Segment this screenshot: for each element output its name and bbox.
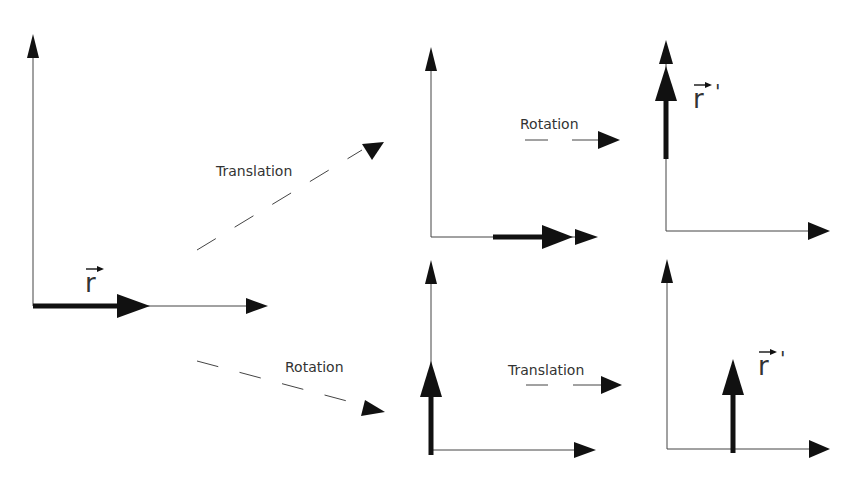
transition-label: Rotation [285, 359, 344, 375]
transform-diagram: r Translation Rotation Rotation [0, 0, 856, 479]
x-axis-arrowhead-icon [574, 442, 596, 458]
panel-translated-then-rotated: r ' [655, 40, 830, 240]
y-axis-arrowhead-icon [425, 47, 437, 71]
vector-r-prime-label: r [693, 84, 704, 114]
x-axis-arrowhead-icon [246, 298, 268, 314]
transition-rotation-bottom: Rotation [197, 359, 385, 416]
x-axis-arrowhead-icon [808, 222, 830, 240]
vector-arrowhead-icon [542, 225, 573, 249]
vector-r-label: r [85, 268, 96, 298]
transition-translation-bottom: Translation [507, 362, 622, 394]
transition-rotation-top: Rotation [520, 116, 620, 149]
y-axis-arrowhead-icon [27, 34, 39, 58]
vector-arrowhead-icon [420, 361, 442, 397]
prime-mark: ' [780, 346, 786, 370]
vector-arrowhead-icon [655, 66, 677, 101]
prime-mark: ' [715, 79, 721, 103]
transition-arrowhead-icon [362, 142, 384, 160]
vector-arrowhead-icon [722, 359, 744, 395]
vector-arrow-head-icon [97, 266, 104, 272]
panel-rotated-then-translated: r ' [661, 259, 830, 458]
transition-label: Translation [215, 163, 292, 179]
x-axis-arrowhead-icon [809, 440, 830, 458]
transition-label: Rotation [520, 116, 579, 132]
panel-translated [425, 47, 598, 249]
vector-arrow-head-icon [705, 82, 712, 88]
x-axis-arrowhead-icon [575, 229, 598, 245]
vector-r-arrowhead-icon [117, 294, 150, 318]
y-axis-arrowhead-icon [659, 40, 673, 64]
vector-arrow-head-icon [770, 349, 777, 355]
y-axis-arrowhead-icon [661, 259, 673, 283]
transition-label: Translation [507, 362, 584, 378]
transition-arrowhead-icon [598, 131, 620, 149]
y-axis-arrowhead-icon [425, 260, 437, 284]
vector-r-prime-label: r [758, 351, 769, 381]
transition-arrowhead-icon [361, 400, 385, 416]
panel-rotated [420, 260, 596, 458]
transition-translation-top: Translation [197, 142, 384, 250]
transition-arrowhead-icon [601, 376, 622, 394]
